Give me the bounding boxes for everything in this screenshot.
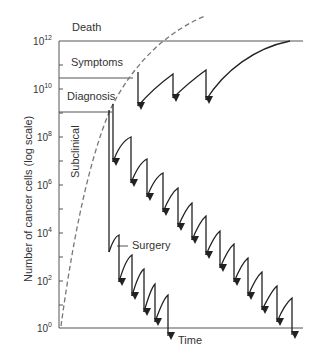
death-label: Death (72, 21, 101, 33)
y-axis-label: Number of cancer cells (log scale) (22, 116, 34, 282)
axes (59, 41, 303, 328)
surgery-label: Surgery (132, 239, 171, 251)
symptoms-label: Symptoms (71, 56, 123, 68)
diagnosis-label: Diagnosis (67, 90, 115, 102)
y-tick-10: 1010 (22, 82, 52, 95)
y-tick-0: 100 (22, 321, 52, 334)
y-tick-12: 1012 (22, 34, 52, 47)
threshold-lines (59, 41, 303, 246)
treatment-curves (109, 41, 292, 336)
x-axis-label: Time (178, 334, 202, 346)
subclinical-label: Subclinical (69, 125, 81, 178)
